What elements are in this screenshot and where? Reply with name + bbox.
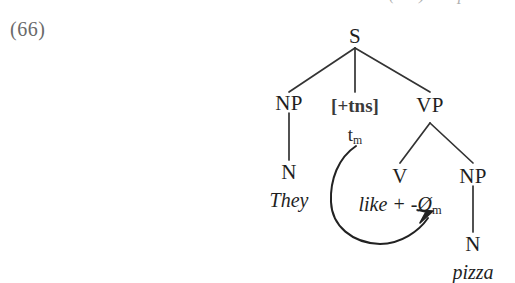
node-s: S [349,26,361,47]
node-trace: tm [348,125,362,147]
node-np-object: NP [459,166,486,187]
branch-vp-np [430,123,473,163]
word-pizza: pizza [452,262,493,282]
branch-vp-v [400,123,430,163]
node-tns-feature: [+tns] [331,96,379,115]
word-they: They [270,190,309,210]
word-like-affix: like + -Øm [358,194,441,217]
affix-subscript: m [432,203,442,217]
syntax-tree-figure: { "figure": { "clipped_previous_line": "… [0,0,515,283]
node-n-object: N [465,234,480,255]
branch-s-np [289,48,355,92]
node-np-subject: NP [275,93,302,114]
node-vp: VP [416,95,443,116]
trace-subscript: m [353,134,362,147]
verb-stem-affix: like + -Ø [358,193,431,215]
tree-branch-lines [0,0,515,283]
node-v: V [392,166,407,187]
branch-s-vp [355,48,430,92]
node-n-subject: N [281,162,296,183]
